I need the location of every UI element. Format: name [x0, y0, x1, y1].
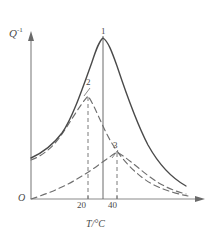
y-axis — [28, 31, 34, 199]
x-tick-label-40: 40 — [108, 201, 117, 210]
y-axis-label: Q-1 — [9, 27, 23, 39]
x-axis-label: T/°C — [86, 219, 105, 229]
curve-label-3: 3 — [113, 141, 118, 150]
curve-label-1: 1 — [101, 27, 106, 36]
curve-1-path — [31, 38, 186, 186]
x-axis — [31, 196, 205, 202]
curve-2-path — [31, 96, 188, 196]
x-tick-label-20: 20 — [77, 201, 86, 210]
origin-label: O — [18, 193, 25, 203]
y-axis-label-base: Q — [9, 27, 17, 39]
y-axis-label-exponent: -1 — [17, 26, 23, 34]
curve-3-path — [31, 152, 186, 199]
chart-canvas — [0, 0, 213, 244]
chart-figure: Q-1 T/°C O 20 40 1 2 3 — [0, 0, 213, 244]
curve-label-2: 2 — [86, 78, 91, 87]
